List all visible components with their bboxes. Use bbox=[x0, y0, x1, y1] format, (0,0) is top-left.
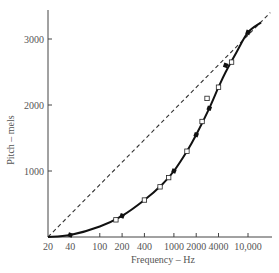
y-tick-label: 2000 bbox=[24, 100, 44, 111]
open-marker bbox=[142, 198, 146, 202]
x-tick-label: 100 bbox=[92, 241, 107, 252]
open-marker bbox=[229, 60, 233, 64]
y-axis-title: Pitch – mels bbox=[5, 115, 16, 165]
open-marker bbox=[166, 175, 170, 179]
x-tick-label: 4000 bbox=[209, 241, 229, 252]
x-tick-label: 40 bbox=[65, 241, 75, 252]
x-tick-label: 400 bbox=[137, 241, 152, 252]
open-marker bbox=[205, 96, 209, 100]
open-marker bbox=[185, 149, 189, 153]
x-tick-label: 2000 bbox=[186, 241, 206, 252]
open-marker bbox=[114, 218, 118, 222]
open-marker bbox=[216, 85, 220, 89]
mel-scale-chart: 100020003000 204010020040010002000400010… bbox=[0, 0, 279, 273]
open-markers bbox=[114, 60, 234, 222]
linear-reference-line bbox=[48, 13, 270, 237]
x-tick-label: 1000 bbox=[164, 241, 184, 252]
x-tick-label: 10,000 bbox=[234, 241, 262, 252]
x-tick-label: 200 bbox=[115, 241, 130, 252]
x-tick-label: 20 bbox=[43, 241, 53, 252]
y-tick-label: 3000 bbox=[24, 34, 44, 45]
y-tick-label: 1000 bbox=[24, 166, 44, 177]
open-marker bbox=[200, 119, 204, 123]
open-marker bbox=[158, 185, 162, 189]
x-axis-title: Frequency – Hz bbox=[131, 254, 195, 265]
x-ticks: 204010020040010002000400010,000 bbox=[43, 233, 262, 252]
filled-markers bbox=[67, 30, 250, 238]
